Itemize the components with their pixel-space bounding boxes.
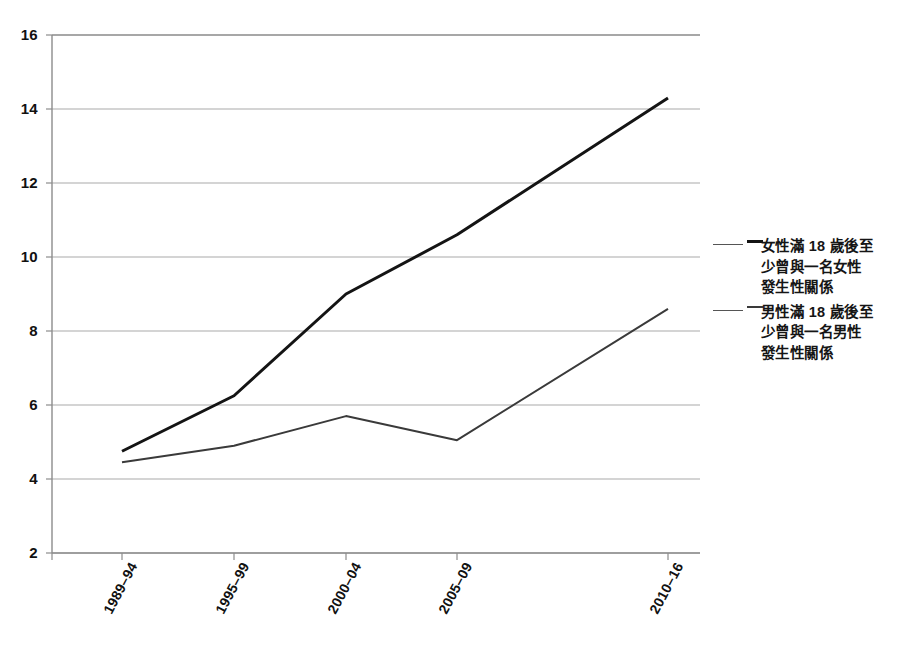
y-tick-label-12: 12: [2, 175, 38, 190]
y-tick-label-8: 8: [2, 323, 38, 338]
y-tick-label-10: 10: [2, 249, 38, 264]
legend-connector-line-male: [713, 310, 743, 311]
legend-connector-line-female: [713, 244, 743, 245]
series-line-male: [122, 309, 668, 463]
legend-entry-female[interactable]: 女性滿 18 歲後至 少曾與一名女性 發生性關係: [713, 236, 918, 298]
legend-label-male-line2: 少曾與一名男性: [761, 324, 862, 340]
line-chart: 161412108642 1989–941995–992000–042005–0…: [0, 0, 923, 645]
legend-label-male-line3: 發生性關係: [761, 345, 833, 361]
legend-label-female-line1: 女性滿 18 歲後至: [761, 238, 873, 254]
y-tick-marks: [46, 35, 52, 553]
legend-label-female: 女性滿 18 歲後至 少曾與一名女性 發生性關係: [761, 236, 911, 298]
y-tick-label-6: 6: [2, 397, 38, 412]
legend-entry-male[interactable]: 男性滿 18 歲後至 少曾與一名男性 發生性關係: [713, 302, 918, 364]
legend-label-female-line3: 發生性關係: [761, 279, 833, 295]
y-tick-label-16: 16: [2, 27, 38, 42]
y-tick-label-14: 14: [2, 101, 38, 116]
series-lines: [122, 98, 668, 462]
legend-label-male-line1: 男性滿 18 歲後至: [761, 304, 873, 320]
gridlines: [52, 35, 700, 553]
x-tick-marks: [52, 553, 668, 560]
legend-swatch-female: [747, 240, 763, 243]
legend: 女性滿 18 歲後至 少曾與一名女性 發生性關係 男性滿 18 歲後至 少曾與一…: [713, 236, 918, 367]
y-tick-label-4: 4: [2, 471, 38, 486]
series-line-female: [122, 98, 668, 451]
legend-label-female-line2: 少曾與一名女性: [761, 259, 862, 275]
legend-swatch-male: [747, 306, 763, 308]
legend-label-male: 男性滿 18 歲後至 少曾與一名男性 發生性關係: [761, 302, 911, 364]
axis-lines: [52, 35, 700, 553]
y-tick-label-2: 2: [2, 545, 38, 560]
